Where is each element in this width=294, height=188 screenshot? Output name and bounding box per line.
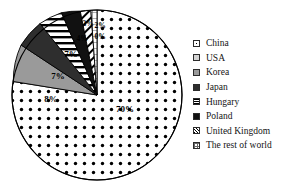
pie-label-korea: 7% [51, 71, 65, 81]
legend-label-usa: USA [206, 53, 225, 63]
legend-label-japan: Japan [206, 82, 228, 92]
pie-chart-svg: 70% 8% 7% 7% 4% 3% 2% 0% [8, 6, 186, 184]
legend-label-hungary: Hungary [206, 97, 239, 107]
pie-label-japan: 7% [64, 49, 78, 59]
chart-legend: China USA Korea Japan Hungary Poland Uni… [193, 36, 294, 153]
legend-item-korea[interactable]: Korea [193, 65, 294, 80]
light-gray-swatch-icon [193, 54, 200, 61]
pie-label-usa: 8% [44, 94, 58, 104]
legend-label-united-kingdom: United Kingdom [206, 126, 270, 136]
medium-gray-swatch-icon [193, 69, 200, 76]
diagonal-hatch-swatch-icon [193, 127, 200, 134]
legend-item-rest-of-world[interactable]: The rest of world [193, 138, 294, 153]
legend-item-japan[interactable]: Japan [193, 80, 294, 95]
legend-item-poland[interactable]: Poland [193, 109, 294, 124]
pie-chart-plot-area: 70% 8% 7% 7% 4% 3% 2% 0% [8, 6, 186, 184]
legend-label-rest-of-world: The rest of world [206, 140, 272, 150]
pie-label-poland: 3% [82, 19, 93, 28]
legend-label-korea: Korea [206, 67, 229, 77]
legend-item-china[interactable]: China [193, 36, 294, 51]
pie-label-hungary: 4% [76, 34, 87, 43]
legend-label-poland: Poland [206, 111, 232, 121]
dots-swatch-icon [193, 40, 200, 47]
legend-item-usa[interactable]: USA [193, 51, 294, 66]
pie-label-rest-of-world: 0% [94, 32, 105, 41]
dark-gray-swatch-icon [193, 84, 200, 91]
grid-swatch-icon [193, 142, 200, 149]
legend-item-united-kingdom[interactable]: United Kingdom [193, 124, 294, 139]
horizontal-stripe-swatch-icon [193, 98, 200, 105]
pie-label-united-kingdom: 2% [94, 21, 105, 30]
pie-chart-figure: 70% 8% 7% 7% 4% 3% 2% 0% China USA Korea… [0, 0, 294, 188]
legend-item-hungary[interactable]: Hungary [193, 94, 294, 109]
legend-label-china: China [206, 38, 229, 48]
black-swatch-icon [193, 113, 200, 120]
pie-label-china: 70% [116, 104, 134, 114]
